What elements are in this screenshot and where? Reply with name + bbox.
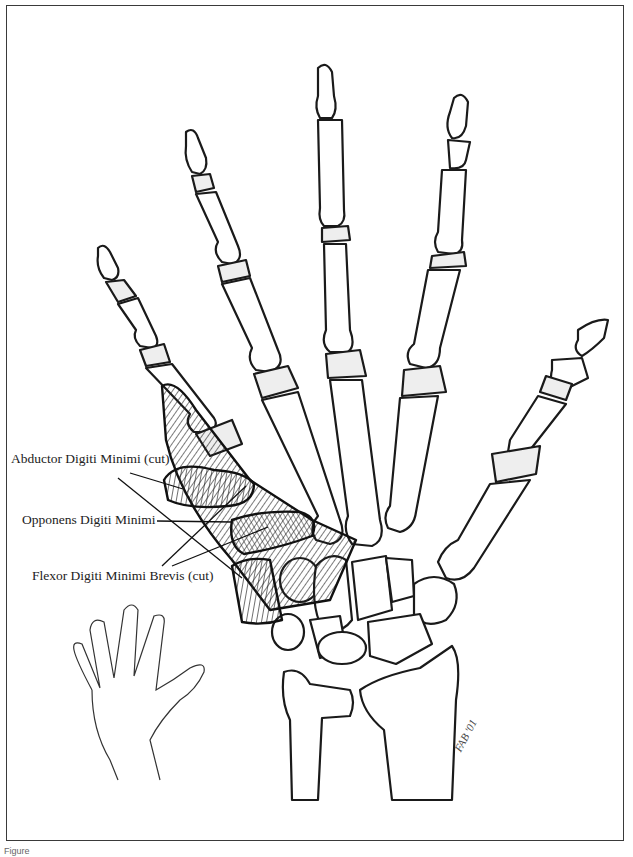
middle-finger-bones bbox=[316, 65, 381, 546]
hand-skeleton-illustration bbox=[0, 0, 633, 857]
hand-outline-inset bbox=[74, 605, 205, 780]
label-opponens-digiti-minimi: Opponens Digiti Minimi bbox=[22, 512, 156, 528]
label-flexor-digiti-minimi-brevis: Flexor Digiti Minimi Brevis (cut) bbox=[32, 568, 214, 584]
ring-finger-bones bbox=[385, 95, 470, 532]
label-abductor-digiti-minimi: Abductor Digiti Minimi (cut) bbox=[11, 451, 170, 467]
figure-caption: Figure bbox=[4, 846, 30, 856]
forearm-bones bbox=[283, 646, 458, 800]
thumb-bones bbox=[438, 320, 608, 580]
